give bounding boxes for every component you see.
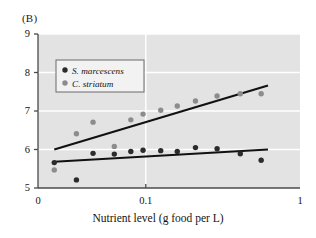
y-tick-label: 5 xyxy=(16,183,30,194)
data-point xyxy=(238,91,243,96)
y-tick-label: 9 xyxy=(16,29,30,40)
data-point xyxy=(258,158,263,163)
data-point xyxy=(74,177,79,182)
data-point xyxy=(238,151,243,156)
x-tick-label: 0.1 xyxy=(126,196,166,207)
data-point xyxy=(258,91,263,96)
data-point xyxy=(128,149,133,154)
data-point xyxy=(52,160,57,165)
y-tick-label: 7 xyxy=(16,106,30,117)
data-point xyxy=(158,148,163,153)
legend-label: S. marcescens xyxy=(72,66,124,76)
data-point xyxy=(90,151,95,156)
data-point xyxy=(128,117,133,122)
data-point xyxy=(214,146,219,151)
x-tick-label: 1 xyxy=(280,196,316,207)
data-point xyxy=(112,144,117,149)
x-tick-label: 0 xyxy=(18,196,58,207)
data-point xyxy=(175,149,180,154)
data-point xyxy=(193,145,198,150)
legend-label: C. striatum xyxy=(72,79,114,89)
data-point xyxy=(158,108,163,113)
figure-panel-b: (B) S. marcescensC. striatum Nutrient le… xyxy=(0,0,316,238)
data-point xyxy=(140,148,145,153)
data-point xyxy=(214,93,219,98)
data-point xyxy=(193,98,198,103)
data-point xyxy=(175,103,180,108)
data-point xyxy=(140,111,145,116)
y-tick-label: 8 xyxy=(16,68,30,79)
data-point xyxy=(90,119,95,124)
legend-marker xyxy=(62,67,67,72)
data-point xyxy=(112,151,117,156)
data-point xyxy=(74,131,79,136)
legend-marker xyxy=(62,80,67,85)
y-tick-label: 6 xyxy=(16,145,30,156)
x-axis-title: Nutrient level (g food per L) xyxy=(0,212,316,224)
data-point xyxy=(52,167,57,172)
